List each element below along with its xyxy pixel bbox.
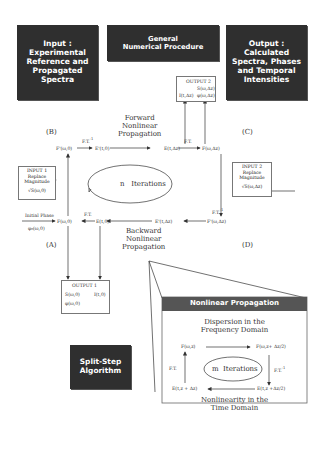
output1-i: I(t,0) (94, 292, 106, 297)
iterations-variable: n (120, 180, 125, 188)
output1-s: S(ω,0) (65, 292, 80, 297)
backward-line: Nonlinear (122, 235, 165, 243)
node-e-t-0: E(t,0) (96, 219, 109, 224)
ift-right-sup: -1 (220, 208, 224, 212)
panel-ift-right-sup: -1 (282, 366, 286, 370)
ift-top-text: F.T. (82, 139, 90, 144)
input2-formula: √S(ω,Δz) (233, 184, 271, 190)
forward-line: Propagation (118, 130, 161, 138)
nonlinearity-label: Nonlinearity in the Time Domain (162, 396, 307, 412)
nonlinearity-line: Time Domain (162, 404, 307, 412)
corner-label-b: (B) (46, 128, 57, 136)
backward-line: Propagation (122, 243, 165, 251)
input2-line: Magnitude (233, 175, 271, 181)
initial-phase-value: φ₀(ω,0) (28, 226, 45, 231)
backward-propagation-label: Backward Nonlinear Propagation (122, 227, 165, 251)
iterations-main-label: n Iterations (120, 180, 166, 188)
node-f-omega-dz: F(ω,Δz) (202, 146, 220, 151)
output2-box: OUTPUT 2 S(ω,Δz) I(t,Δz) φ(ω,Δz) (176, 76, 216, 102)
ift-right-label: F.T.-1 (212, 208, 223, 215)
panel-node-br: E(t,z +Δz/2) (257, 386, 285, 391)
panel-node-tr: F(ω,z+ Δz/2) (256, 344, 286, 349)
panel-iterations-text: Iterations (223, 365, 258, 373)
initial-phase-label: Initial Phase (25, 213, 54, 218)
panel-node-tl: F(ω,z) (181, 344, 195, 349)
node-f-omega-0: F(ω,0) (57, 219, 72, 224)
node-f-prime-omega-0: F'(ω,0) (56, 146, 72, 151)
output2-s: S(ω,Δz) (197, 86, 215, 91)
ft-bottom-label: F.T. (84, 212, 92, 217)
panel-ift-right: F.T.-1 (274, 366, 285, 373)
forward-line: Forward (118, 114, 161, 122)
output2-title: OUTPUT 2 (186, 79, 211, 84)
output2-i: I(t,Δz) (179, 93, 193, 98)
corner-label-d: (D) (242, 241, 253, 249)
input1-line: Magnitude (19, 179, 55, 185)
split-step-line: Algorithm (70, 367, 131, 376)
diagram-connectors (0, 0, 320, 451)
panel-node-bl: E(t,z + Δz) (172, 386, 197, 391)
input1-formula: √S(ω,0) (19, 188, 55, 194)
split-step-box: Split-Step Algorithm (70, 345, 131, 389)
corner-label-c: (C) (242, 128, 253, 136)
ift-top-sup: -1 (90, 137, 94, 141)
node-e-prime-t-dz: E'(t,Δz) (155, 219, 172, 224)
output1-phi: φ(ω,0) (65, 301, 80, 306)
ift-right-text: F.T. (212, 210, 220, 215)
input2-box: INPUT 2 Replace Magnitude √S(ω,Δz) (232, 162, 272, 197)
nonlinear-panel-title: Nonlinear Propagation (162, 299, 307, 307)
node-e-t-dz: E(t,Δz) (164, 146, 180, 151)
panel-ft-left: F.T. (169, 366, 177, 371)
output1-box: OUTPUT 1 S(ω,0) I(t,0) φ(ω,0) (61, 280, 110, 314)
input1-box: INPUT 1 Replace Magnitude √S(ω,0) (18, 166, 56, 200)
dispersion-label: Dispersion in the Frequency Domain (162, 318, 307, 334)
corner-label-a: (A) (46, 241, 57, 249)
nonlinearity-line: Nonlinearity in the (162, 396, 307, 404)
iterations-text: Iterations (131, 180, 166, 188)
output2-phi: φ(ω,Δz) (197, 93, 215, 98)
backward-line: Backward (122, 227, 165, 235)
panel-iterations-variable: m (212, 365, 219, 373)
dispersion-line: Frequency Domain (162, 326, 307, 334)
panel-ift-right-text: F.T. (274, 368, 282, 373)
node-f-prime-omega-dz: F'(ω,Δz) (207, 219, 226, 224)
ft-top-label: F.T. (184, 139, 192, 144)
panel-iterations-label: m Iterations (212, 365, 258, 373)
node-e-prime-t-0: E'(t,0) (95, 146, 109, 151)
output1-title: OUTPUT 1 (72, 283, 97, 288)
ift-top-label: F.T.-1 (82, 137, 93, 144)
forward-line: Nonlinear (118, 122, 161, 130)
forward-propagation-label: Forward Nonlinear Propagation (118, 114, 161, 138)
dispersion-line: Dispersion in the (162, 318, 307, 326)
